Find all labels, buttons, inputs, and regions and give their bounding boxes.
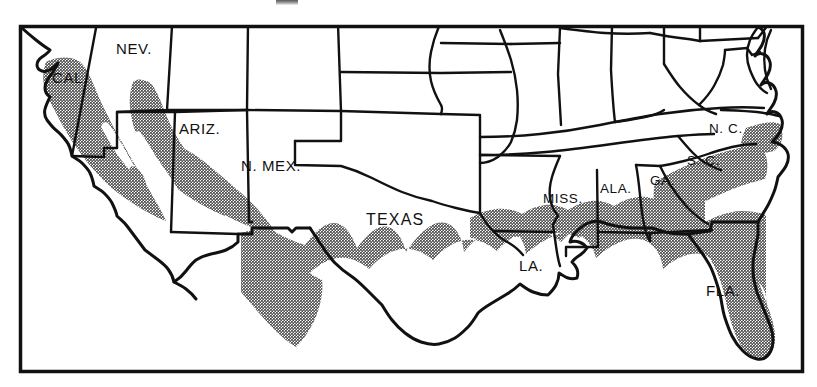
state-label-ariz: ARIZ. bbox=[179, 121, 220, 136]
state-label-texas: TEXAS bbox=[366, 212, 424, 228]
border-md-inner bbox=[725, 48, 760, 55]
border-ga-north bbox=[636, 165, 660, 166]
map-canvas bbox=[0, 0, 817, 387]
distribution-map-figure: CAL. NEV. ARIZ. N. MEX. TEXAS LA. MISS. … bbox=[0, 0, 817, 387]
state-label-nmex: N. MEX. bbox=[241, 158, 301, 173]
border-north-lakes bbox=[560, 28, 650, 34]
border-co-ks bbox=[247, 24, 341, 111]
border-la-north bbox=[493, 231, 553, 232]
border-ut-co bbox=[167, 24, 248, 110]
distribution-shading-group bbox=[43, 57, 782, 359]
border-ne-ia bbox=[430, 24, 443, 114]
border-wi-il bbox=[511, 43, 560, 44]
border-ia-mo bbox=[441, 72, 511, 73]
border-ok-panhandle bbox=[295, 111, 341, 141]
border-il-mo bbox=[480, 30, 518, 163]
state-label-ala: ALA. bbox=[600, 182, 632, 196]
state-label-fla: FLA. bbox=[706, 283, 740, 298]
border-nm-mexico bbox=[171, 232, 238, 234]
border-va-wv bbox=[664, 64, 716, 114]
state-label-nev: NEV. bbox=[116, 41, 152, 56]
border-ne-ks bbox=[341, 72, 440, 73]
state-label-la: LA. bbox=[519, 258, 543, 273]
state-label-nc: N. C. bbox=[709, 122, 743, 136]
border-wv-md bbox=[699, 50, 725, 105]
border-mn-ia bbox=[441, 43, 511, 44]
state-label-miss: MISS. bbox=[543, 192, 583, 206]
border-ky-va bbox=[615, 110, 664, 122]
state-label-cal: CAL. bbox=[52, 70, 88, 85]
border-ok-ar bbox=[441, 114, 480, 213]
state-label-sc: S. C. bbox=[687, 154, 720, 168]
state-label-ga: GA. bbox=[650, 174, 675, 188]
border-tx-ok bbox=[295, 141, 480, 213]
border-in-oh bbox=[611, 26, 615, 122]
border-ny-pa bbox=[650, 33, 700, 41]
border-ks-ok bbox=[341, 111, 441, 114]
